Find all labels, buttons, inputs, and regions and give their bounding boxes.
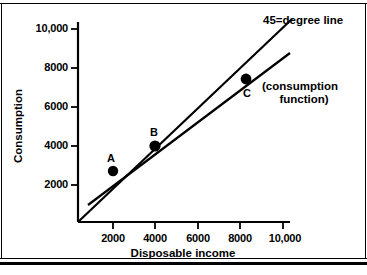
forty-five-degree-line-label: 45=degree line (263, 14, 343, 27)
point-label-c: C (243, 87, 251, 99)
forty-five-degree-line (78, 19, 292, 222)
y-axis-title: Consumption (12, 76, 24, 176)
data-point-b (149, 140, 160, 151)
point-label-a: A (107, 152, 115, 164)
y-tick-label-8000: 8000 (0, 62, 68, 73)
data-point-c (241, 74, 252, 85)
x-axis-title: Disposable income (108, 247, 258, 259)
y-tick-label-6000: 6000 (0, 101, 68, 112)
consumption-function-label: (consumption function) (262, 80, 362, 106)
y-tick-label-4000: 4000 (0, 140, 68, 151)
figure-container: 10,000 8000 6000 4000 2000 2000 4000 600… (0, 0, 367, 275)
x-tick-label-10000: 10,000 (260, 233, 310, 244)
y-tick-label-10000: 10,000 (0, 23, 68, 34)
chart-plot-area: 10,000 8000 6000 4000 2000 2000 4000 600… (0, 0, 367, 275)
consumption-function-line (88, 53, 290, 205)
y-tick-label-2000: 2000 (0, 179, 68, 190)
consumption-function-label-line1: (consumption (262, 80, 362, 93)
x-tick-label-8000: 8000 (215, 233, 265, 244)
point-label-b: B (150, 126, 158, 138)
data-point-a (108, 166, 118, 176)
consumption-function-label-line2: function) (262, 93, 346, 106)
